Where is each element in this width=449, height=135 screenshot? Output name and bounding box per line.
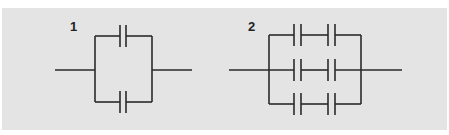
capacitor-circuits-figure: 1 2 <box>0 0 449 135</box>
circuit-1-label: 1 <box>70 19 77 34</box>
figure-panel <box>2 8 447 130</box>
circuit-2-label: 2 <box>248 19 255 34</box>
